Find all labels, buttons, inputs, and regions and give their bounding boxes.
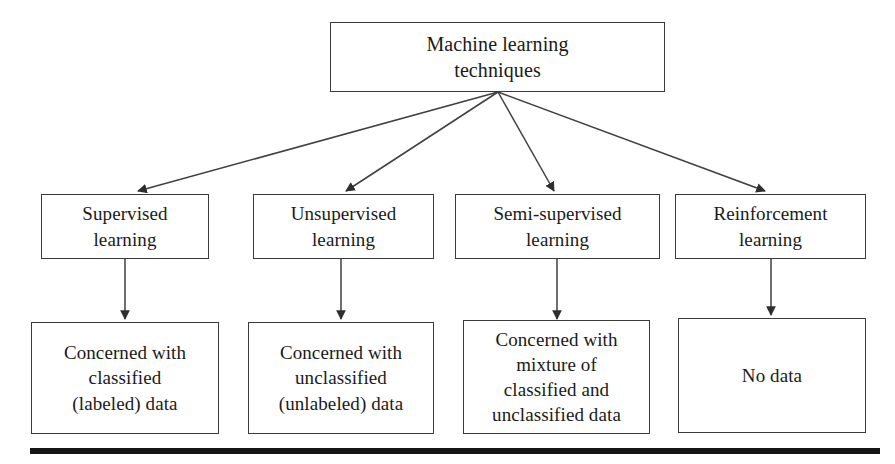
node-reinforcement-description-label: No data <box>679 363 865 388</box>
node-semi-supervised-description: Concerned with mixture of classified and… <box>463 320 650 434</box>
connector-root-to-reinforcement <box>498 92 765 191</box>
node-supervised-learning-label: Supervised learning <box>42 201 208 251</box>
node-semi-supervised-learning-label: Semi-supervised learning <box>456 201 659 251</box>
connector-root-to-supervised <box>138 92 498 191</box>
node-supervised-learning: Supervised learning <box>41 194 209 259</box>
node-unsupervised-description-label: Concerned with unclassified (unlabeled) … <box>249 340 433 415</box>
node-reinforcement-learning: Reinforcement learning <box>675 194 866 259</box>
bottom-rule <box>30 448 880 454</box>
connector-root-to-unsupervised <box>346 92 498 191</box>
node-supervised-description-label: Concerned with classified (labeled) data <box>32 340 218 415</box>
node-machine-learning-techniques-label: Machine learning techniques <box>331 31 664 84</box>
node-semi-supervised-learning: Semi-supervised learning <box>455 194 660 259</box>
node-unsupervised-description: Concerned with unclassified (unlabeled) … <box>248 322 434 434</box>
node-semi-supervised-description-label: Concerned with mixture of classified and… <box>464 327 649 427</box>
node-unsupervised-learning-label: Unsupervised learning <box>254 201 433 251</box>
node-unsupervised-learning: Unsupervised learning <box>253 194 434 259</box>
node-reinforcement-learning-label: Reinforcement learning <box>676 201 865 251</box>
node-machine-learning-techniques: Machine learning techniques <box>330 22 665 92</box>
connector-root-to-semi-supervised <box>498 92 554 191</box>
diagram-canvas: Machine learning techniques Supervised l… <box>0 0 895 464</box>
node-supervised-description: Concerned with classified (labeled) data <box>31 322 219 434</box>
node-reinforcement-description: No data <box>678 318 866 433</box>
